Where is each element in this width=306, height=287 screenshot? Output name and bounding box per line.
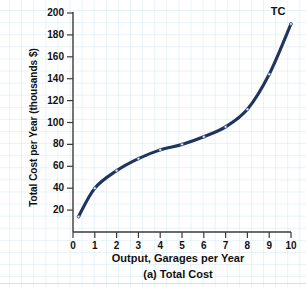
data-point-4 (159, 148, 162, 151)
x-tick-label-9: 9 (266, 241, 272, 251)
data-point-7 (224, 125, 227, 128)
panel-caption: (a) Total Cost (58, 268, 298, 280)
data-point-9 (268, 73, 271, 76)
y-axis-title: Total Cost per Year (thousands $) (28, 33, 39, 223)
x-tick-label-8: 8 (245, 241, 251, 251)
data-point-3 (137, 157, 140, 160)
y-tick-label-20: 20 (40, 205, 64, 215)
y-axis-ticks (67, 13, 73, 210)
data-point-5 (181, 143, 184, 146)
data-point-markers (77, 23, 292, 219)
y-tick-label-60: 60 (40, 161, 64, 171)
total-cost-curve (78, 24, 291, 217)
x-tick-label-6: 6 (201, 241, 207, 251)
y-tick-label-100: 100 (37, 118, 64, 128)
y-tick-label-40: 40 (40, 183, 64, 193)
x-tick-label-2: 2 (114, 241, 120, 251)
y-tick-label-140: 140 (37, 74, 64, 84)
x-tick-label-5: 5 (179, 241, 185, 251)
x-tick-label-3: 3 (136, 241, 142, 251)
data-point-8 (246, 108, 249, 111)
x-tick-label-10: 10 (285, 241, 296, 251)
x-tick-label-7: 7 (223, 241, 229, 251)
y-tick-label-180: 180 (37, 30, 64, 40)
y-tick-label-120: 120 (37, 96, 64, 106)
x-tick-label-4: 4 (157, 241, 163, 251)
data-point-6 (202, 135, 205, 138)
total-cost-chart: 20 40 60 80 100 120 140 160 180 200 0 1 … (0, 0, 306, 287)
x-axis-title: Output, Garages per Year (58, 252, 298, 264)
series-label-tc: TC (271, 5, 286, 17)
y-tick-label-160: 160 (37, 52, 64, 62)
data-point-10 (290, 23, 293, 26)
x-axis-ticks (73, 232, 291, 238)
x-tick-label-0: 0 (70, 241, 76, 251)
data-point-1 (93, 187, 96, 190)
footer-rule (0, 283, 306, 284)
data-point-0.25 (77, 215, 80, 218)
y-tick-label-80: 80 (40, 139, 64, 149)
data-point-2 (115, 169, 118, 172)
x-tick-label-1: 1 (92, 241, 98, 251)
y-tick-label-200: 200 (37, 8, 64, 18)
